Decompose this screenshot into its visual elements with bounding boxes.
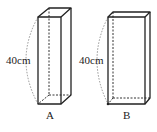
prism-b-visible-edges — [108, 12, 150, 104]
prism-a-height-label: 40cm — [6, 54, 31, 66]
prism-a-label: A — [46, 109, 54, 121]
prisms-diagram: 40cm A 40cm B — [0, 0, 157, 132]
prism-b: 40cm B — [79, 12, 150, 121]
prism-b-hidden-edges — [108, 12, 150, 104]
prism-a-hidden-edges — [38, 8, 71, 104]
prism-b-height-label: 40cm — [79, 54, 104, 66]
prism-a-visible-edges — [38, 8, 71, 104]
prism-b-corner-dot — [107, 103, 110, 106]
prism-b-label: B — [123, 109, 130, 121]
prism-a: 40cm A — [6, 8, 71, 121]
